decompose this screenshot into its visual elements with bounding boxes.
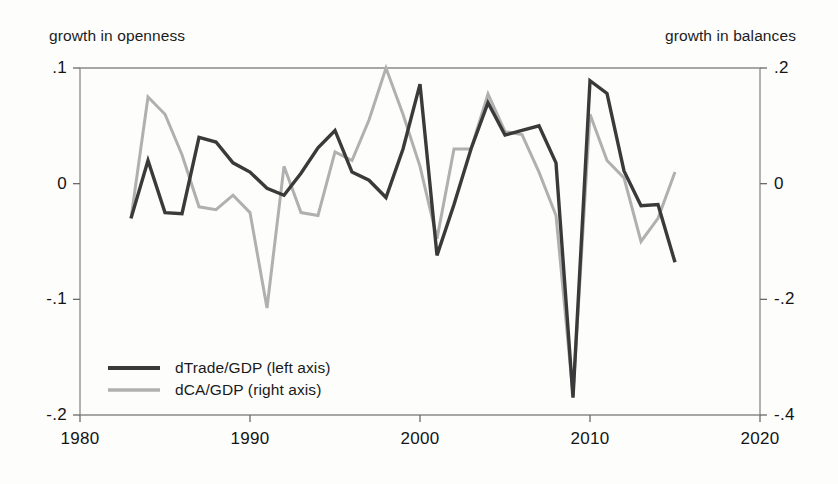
y-left-tick-0: 0 <box>57 174 67 194</box>
y-left-tick--.1: -.1 <box>46 289 67 309</box>
y-right-tick--.2: -.2 <box>774 289 795 309</box>
y-right-tick-0: 0 <box>774 174 784 194</box>
y-right-tick-.2: .2 <box>774 58 789 78</box>
chart-figure: growth in openness growth in balances .1… <box>0 0 838 484</box>
legend-label-0: dTrade/GDP (left axis) <box>175 359 331 377</box>
data-lines <box>131 68 675 398</box>
x-tick-2010: 2010 <box>570 429 609 449</box>
y-left-tick-.1: .1 <box>52 58 67 78</box>
y-left-tick--.2: -.2 <box>46 405 67 425</box>
x-tick-1980: 1980 <box>60 429 99 449</box>
legend-label-1: dCA/GDP (right axis) <box>175 381 321 399</box>
x-tick-2020: 2020 <box>740 429 779 449</box>
y-right-tick--.4: -.4 <box>774 405 795 425</box>
legend-swatches <box>108 368 160 390</box>
x-tick-1990: 1990 <box>230 429 269 449</box>
x-tick-2000: 2000 <box>400 429 439 449</box>
plot-area <box>0 0 838 484</box>
